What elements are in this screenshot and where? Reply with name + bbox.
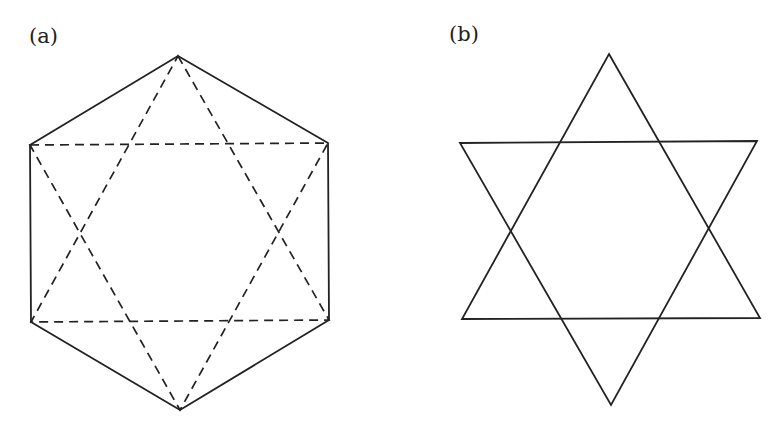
diagram-canvas [0,0,782,425]
figure-a-hexagon-with-star [30,56,329,410]
solid-triangle-up [462,54,760,319]
figure-b-hexagram [460,54,760,405]
solid-triangle-down [460,141,757,405]
hexagon-outline [30,56,329,410]
dashed-triangle-up [31,56,329,322]
dashed-triangle-down [30,143,328,410]
